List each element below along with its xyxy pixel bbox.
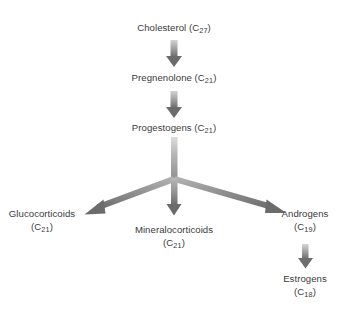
node-androgens: Androgens (C19) [282, 208, 329, 234]
node-pregnenolone: Pregnenolone (C21) [132, 72, 217, 86]
progestogens-carbon-count: 21 [205, 126, 213, 135]
arrow-branch-to-glucocorticoids [85, 176, 177, 214]
node-androgens-label: Androgens [282, 208, 329, 221]
node-mineralocorticoids-label: Mineralocorticoids [135, 224, 213, 237]
node-androgens-formula: (C19) [282, 221, 329, 235]
arrow-progestogens-branch-stem [171, 137, 178, 183]
androgens-carbon-count: 19 [304, 225, 312, 234]
node-estrogens: Estrogens (C18) [283, 273, 327, 299]
node-glucocorticoids-formula: (C21) [9, 221, 75, 235]
arrow-branch-to-androgens [172, 176, 287, 213]
node-cholesterol: Cholesterol (C27) [137, 22, 211, 36]
node-progestogens-label: Progestogens (C21) [132, 122, 216, 136]
node-mineralocorticoids: Mineralocorticoids (C21) [135, 224, 213, 250]
arrow-pregnenolone-to-progestogens [166, 91, 182, 118]
arrow-androgens-to-estrogens [298, 244, 313, 269]
node-cholesterol-label: Cholesterol (C27) [137, 22, 211, 36]
node-mineralocorticoids-formula: (C21) [135, 237, 213, 251]
arrow-layer [0, 0, 344, 309]
node-progestogens: Progestogens (C21) [132, 122, 216, 136]
node-glucocorticoids-label: Glucocorticoids [9, 208, 75, 221]
node-estrogens-formula: (C18) [283, 286, 327, 300]
pregnenolone-carbon-count: 21 [205, 76, 213, 85]
cholesterol-carbon-count: 27 [199, 26, 207, 35]
node-pregnenolone-label: Pregnenolone (C21) [132, 72, 217, 86]
steroidogenesis-diagram: Cholesterol (C27) Pregnenolone (C21) Pro… [0, 0, 344, 309]
glucocorticoids-carbon-count: 21 [41, 225, 49, 234]
node-estrogens-label: Estrogens [283, 273, 327, 286]
estrogens-carbon-count: 18 [304, 290, 312, 299]
arrow-cholesterol-to-pregnenolone [166, 40, 182, 67]
node-glucocorticoids: Glucocorticoids (C21) [9, 208, 75, 234]
mineralocorticoids-carbon-count: 21 [173, 241, 181, 250]
